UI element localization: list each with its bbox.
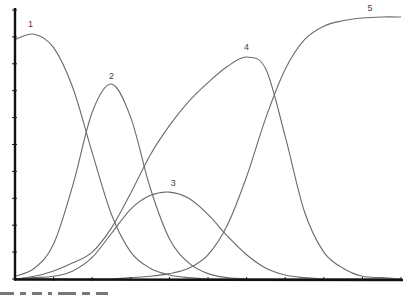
curve-4 [15, 57, 401, 279]
axis-ticks-group [12, 10, 401, 281]
curve-label-5: 5 [368, 3, 373, 13]
curve-3 [15, 192, 401, 279]
curve-label-3: 3 [171, 178, 176, 188]
curve-2 [15, 84, 401, 279]
curves-group [15, 17, 401, 279]
curve-label-2: 2 [109, 71, 114, 81]
figure-caption-cropped [0, 292, 140, 300]
curve-5 [15, 17, 401, 279]
line-chart: 12345 [0, 0, 418, 300]
curve-label-1: 1 [28, 19, 33, 29]
x-axis [14, 280, 403, 281]
curve-label-4: 4 [244, 42, 249, 52]
curve-1 [15, 34, 401, 279]
